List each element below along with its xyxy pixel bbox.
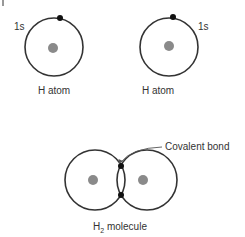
atom-label-right: H atom xyxy=(142,85,174,96)
nucleus-molecule-right xyxy=(138,175,148,185)
electron-left xyxy=(57,15,63,21)
covalent-bond-arrow xyxy=(121,147,162,162)
h-atom-left: 1s H atom xyxy=(14,15,83,96)
nucleus-molecule-left xyxy=(88,175,98,185)
molecule-label: H2 molecule xyxy=(93,221,147,234)
shared-electron-bottom xyxy=(118,192,124,198)
orbital-label-left: 1s xyxy=(14,21,25,32)
covalent-bond-label: Covalent bond xyxy=(165,141,230,152)
h2-molecule: Covalent bond H2 molecule xyxy=(65,141,230,234)
h2-bond-diagram: 1s H atom 1s H atom Covalent bond H2 mol… xyxy=(0,0,245,237)
atom-label-left: H atom xyxy=(38,85,70,96)
nucleus-left xyxy=(48,43,58,53)
h-atom-right: 1s H atom xyxy=(140,14,209,96)
electron-right xyxy=(170,14,176,20)
shared-electron-top xyxy=(118,163,124,169)
orbital-label-right: 1s xyxy=(198,21,209,32)
nucleus-right xyxy=(164,41,174,51)
